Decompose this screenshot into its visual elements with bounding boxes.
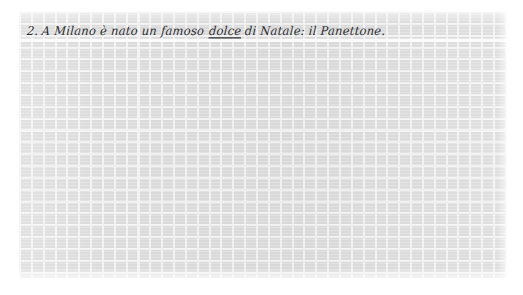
scan-right-fade xyxy=(497,11,507,278)
scan-texture-overlay xyxy=(19,11,507,278)
underlined-word: dolce xyxy=(208,24,242,39)
handwritten-answer-line: 2. A Milano è nato un famoso dolce di Na… xyxy=(27,22,497,40)
sentence-text-after: di Natale: il Panettone. xyxy=(241,24,386,39)
sentence-text-before: A Milano è nato un famoso xyxy=(38,24,209,39)
squared-paper-sheet: 2. A Milano è nato un famoso dolce di Na… xyxy=(19,11,507,278)
worksheet-page: 2. A Milano è nato un famoso dolce di Na… xyxy=(0,0,523,295)
scan-bottom-fade xyxy=(19,268,507,278)
